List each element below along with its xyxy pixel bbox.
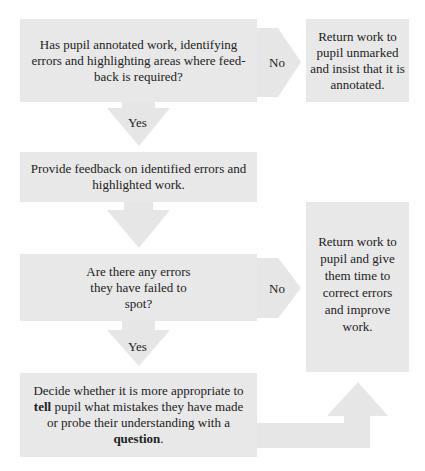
arrow-down-2 xyxy=(107,202,170,248)
action-tell-or-question: Decide whether it is more appropriate to… xyxy=(20,373,257,457)
arrow-elbow-up xyxy=(257,382,388,448)
decision-annotated-text: Has pupil annotated work, identifying er… xyxy=(28,37,249,85)
action-return-correct-text: Return work to pupil and give them time … xyxy=(312,233,403,335)
action-return-unmarked-text: Return work to pupil unmarked and insist… xyxy=(310,29,405,93)
edge-label-yes-2: Yes xyxy=(128,339,147,355)
action-return-unmarked: Return work to pupil unmarked and insist… xyxy=(306,19,409,102)
decision-errors-missed: Are there any errors they have failed to… xyxy=(20,254,257,321)
decision-errors-missed-text: Are there any errors they have failed to… xyxy=(80,264,197,312)
edge-label-no-1: No xyxy=(269,55,285,71)
emphasis-question: question xyxy=(113,431,160,446)
emphasis-tell: tell xyxy=(34,399,51,414)
edge-label-no-2: No xyxy=(269,281,285,297)
action-return-correct: Return work to pupil and give them time … xyxy=(306,202,409,372)
decision-annotated: Has pupil annotated work, identifying er… xyxy=(20,19,257,102)
action-provide-feedback: Provide feedback on identified errors an… xyxy=(20,152,257,202)
action-provide-feedback-text: Provide feedback on identified errors an… xyxy=(28,161,249,193)
edge-label-yes-1: Yes xyxy=(128,115,147,131)
action-tell-or-question-text: Decide whether it is more appropriate to… xyxy=(28,383,249,447)
